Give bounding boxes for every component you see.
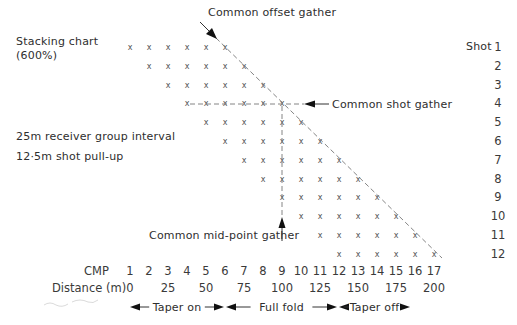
trace-marker: x bbox=[337, 156, 342, 165]
chart-subtitle: (600%) bbox=[16, 49, 57, 62]
trace-marker: x bbox=[375, 231, 380, 240]
trace-marker: x bbox=[223, 43, 228, 52]
note-receiver-interval: 25m receiver group interval bbox=[16, 130, 175, 143]
trace-marker: x bbox=[337, 193, 342, 202]
common-offset-dashed-line bbox=[216, 38, 442, 258]
trace-marker: x bbox=[185, 62, 190, 71]
trace-marker: x bbox=[337, 175, 342, 184]
common-midpoint-label: Common mid-point gather bbox=[149, 229, 299, 242]
distance-tick: 75 bbox=[237, 281, 252, 295]
trace-marker: x bbox=[261, 175, 266, 184]
trace-marker: x bbox=[261, 118, 266, 127]
trace-marker: x bbox=[413, 250, 418, 259]
trace-marker: x bbox=[356, 193, 361, 202]
cmp-tick: 16 bbox=[408, 264, 423, 278]
trace-marker: x bbox=[261, 156, 266, 165]
shot-number-column: 123456789101112 bbox=[491, 40, 506, 261]
arrow-left-icon bbox=[226, 304, 236, 311]
cmp-tick: 8 bbox=[259, 264, 266, 278]
distance-axis-label: Distance (m) bbox=[52, 281, 126, 295]
shot-number: 9 bbox=[494, 190, 501, 204]
shot-number: 3 bbox=[494, 78, 501, 92]
chart-title: Stacking chart bbox=[16, 35, 99, 48]
shot-number: 12 bbox=[491, 247, 506, 261]
trace-marker: x bbox=[147, 62, 152, 71]
common-shot-label: Common shot gather bbox=[332, 98, 452, 111]
trace-marker: x bbox=[375, 212, 380, 221]
cmp-axis-label: CMP bbox=[84, 264, 109, 278]
shot-number: 4 bbox=[494, 96, 501, 110]
distance-tick: 50 bbox=[199, 281, 214, 295]
trace-marker: x bbox=[299, 193, 304, 202]
distance-tick: 150 bbox=[347, 281, 369, 295]
trace-marker: x bbox=[356, 250, 361, 259]
trace-marker: x bbox=[147, 43, 152, 52]
trace-marker: x bbox=[299, 212, 304, 221]
trace-marker: x bbox=[204, 118, 209, 127]
cmp-tick: 6 bbox=[221, 264, 228, 278]
trace-marker: x bbox=[185, 81, 190, 90]
arrow-left-icon bbox=[130, 304, 140, 311]
trace-marker: x bbox=[242, 156, 247, 165]
distance-tick: 0 bbox=[126, 281, 133, 295]
cmp-tick: 5 bbox=[202, 264, 209, 278]
distance-axis-ticks: 0255075100125150175200 bbox=[126, 281, 445, 295]
fold-range-taper-off: Taper off bbox=[339, 301, 410, 314]
trace-marker: x bbox=[242, 137, 247, 146]
cmp-tick: 4 bbox=[183, 264, 190, 278]
shot-number: 5 bbox=[494, 115, 501, 129]
shot-header: Shot bbox=[466, 40, 492, 53]
shot-number: 7 bbox=[494, 153, 501, 167]
cmp-tick: 1 bbox=[126, 264, 133, 278]
shot-number: 2 bbox=[494, 59, 501, 73]
distance-tick: 100 bbox=[271, 281, 293, 295]
cmp-tick: 14 bbox=[370, 264, 385, 278]
trace-marker: x bbox=[356, 231, 361, 240]
arrow-right-icon bbox=[214, 304, 224, 311]
fold-range-label: Taper on bbox=[152, 301, 202, 314]
cmp-tick: 2 bbox=[145, 264, 152, 278]
trace-marker: x bbox=[318, 193, 323, 202]
distance-tick: 25 bbox=[161, 281, 176, 295]
cmp-tick: 10 bbox=[294, 264, 309, 278]
trace-marker: x bbox=[242, 118, 247, 127]
trace-marker: x bbox=[299, 175, 304, 184]
trace-marker: x bbox=[223, 137, 228, 146]
arrow-right-icon bbox=[327, 304, 337, 311]
cmp-tick: 11 bbox=[313, 264, 328, 278]
distance-tick: 175 bbox=[385, 281, 407, 295]
trace-marker: x bbox=[394, 250, 399, 259]
cmp-tick: 3 bbox=[164, 264, 171, 278]
cmp-tick: 12 bbox=[332, 264, 347, 278]
trace-marker: x bbox=[432, 250, 437, 259]
common-offset-label: Common offset gather bbox=[208, 6, 336, 19]
trace-marker: x bbox=[223, 118, 228, 127]
cmp-tick: 17 bbox=[427, 264, 442, 278]
trace-marker: x bbox=[299, 137, 304, 146]
cmp-tick: 7 bbox=[240, 264, 247, 278]
trace-marker: x bbox=[185, 43, 190, 52]
cmp-tick: 13 bbox=[351, 264, 366, 278]
distance-tick: 125 bbox=[309, 281, 331, 295]
trace-marker: x bbox=[375, 250, 380, 259]
trace-marker: x bbox=[337, 250, 342, 259]
arrow-left-icon bbox=[304, 101, 315, 108]
fold-range-label: Taper off bbox=[349, 301, 401, 314]
trace-marker: x bbox=[261, 137, 266, 146]
handwritten-annotation-scribble bbox=[44, 300, 98, 306]
trace-marker: x bbox=[318, 175, 323, 184]
arrow-up-icon bbox=[279, 217, 286, 228]
trace-marker: x bbox=[413, 231, 418, 240]
trace-marker: x bbox=[166, 81, 171, 90]
trace-marker: x bbox=[356, 212, 361, 221]
fold-range-label: Full fold bbox=[259, 301, 304, 314]
shot-number: 10 bbox=[491, 209, 506, 223]
diagram-canvas: Stacking chart (600%) 25m receiver group… bbox=[0, 0, 517, 325]
shot-number: 6 bbox=[494, 134, 501, 148]
trace-marker: x bbox=[166, 43, 171, 52]
cmp-tick: 9 bbox=[278, 264, 285, 278]
trace-marker: x bbox=[128, 43, 133, 52]
arrow-right-icon bbox=[400, 304, 410, 311]
trace-marker: x bbox=[299, 156, 304, 165]
trace-marker: x bbox=[337, 212, 342, 221]
